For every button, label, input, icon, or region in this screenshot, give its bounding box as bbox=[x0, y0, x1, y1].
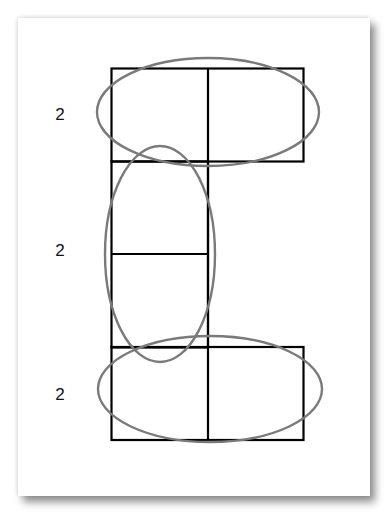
loop-bottom-pair bbox=[98, 336, 322, 442]
grid-lines bbox=[112, 69, 304, 441]
grid-diagram bbox=[0, 0, 392, 524]
grouping-loops bbox=[97, 58, 322, 442]
